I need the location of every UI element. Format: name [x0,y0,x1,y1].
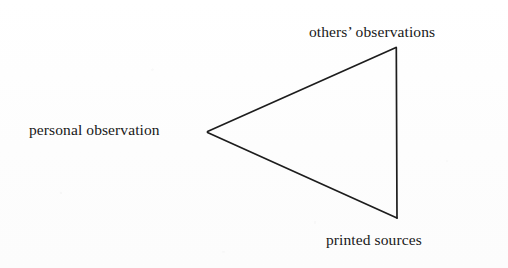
vertex-label-printed-sources: printed sources [326,230,422,249]
vertex-label-others-observations: others’ observations [309,22,435,41]
edge-printed-to-personal [208,133,398,219]
vertex-label-personal-observation: personal observation [29,120,160,139]
figure-canvas: others’ observations personal observatio… [0,0,508,268]
edge-others-to-printed [396,48,397,219]
edge-personal-to-others [208,48,397,132]
